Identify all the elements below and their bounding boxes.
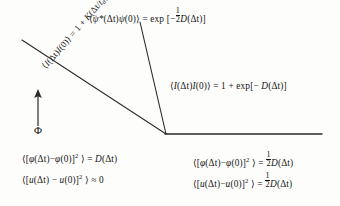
- phi-axis-label: Φ: [26, 124, 50, 136]
- br1-D-symbol: D: [271, 158, 278, 168]
- br2-arg-zero: (0): [230, 179, 241, 189]
- br2-half-numerator: 1: [265, 173, 269, 180]
- br1-half-numerator: 1: [266, 152, 270, 159]
- potential-well-diagram: Φ ⟨ψ*(Δt)ψ(0)⟩ = exp [−12D(Δt)] ⟨I(Δt)I(…: [0, 0, 340, 206]
- intexp-one: 1: [221, 81, 226, 91]
- annotation-displacement-msd-half: ⟨[u(Δt)−u(0)]2 ⟩ = 12D(Δt): [193, 173, 292, 190]
- bl1-D-arg: (Δt): [102, 154, 117, 164]
- br1-arg-zero: (0): [231, 158, 242, 168]
- phi-axis: Φ: [26, 88, 50, 142]
- br2-D-arg: (Δt): [277, 179, 292, 189]
- br1-arg-dt: (Δt): [205, 158, 220, 168]
- psi-exp-label: exp: [150, 14, 164, 24]
- psi-equals: =: [142, 14, 147, 24]
- intexp-minus: −: [253, 81, 258, 91]
- psi-ket: ⟩: [136, 14, 140, 24]
- br2-arg-dt: (Δt): [205, 179, 220, 189]
- br1-D-arg: (Δt): [278, 158, 293, 168]
- bl1-arg-dt: (Δt): [34, 154, 49, 164]
- psi-one-half-fraction: 12: [175, 8, 180, 23]
- intexp-bracket-close: ]: [284, 81, 287, 91]
- psi-arg-zero: (0): [125, 14, 136, 24]
- br1-ket: ⟩: [252, 158, 256, 168]
- steep-branch-line: [140, 22, 166, 134]
- bl1-ket: ⟩: [81, 154, 85, 164]
- intexp-D-arg: (Δt): [268, 81, 283, 91]
- bl2-arg-dt: (Δt): [34, 175, 49, 185]
- intexp-arg-zero: (0): [196, 81, 207, 91]
- psi-half-numerator: 1: [176, 8, 180, 15]
- bl2-ket: ⟩: [85, 175, 89, 185]
- bl2-arg-zero: (0): [64, 175, 75, 185]
- bl2-square: 2: [79, 173, 82, 180]
- br2-equals: =: [257, 179, 262, 189]
- bl1-D-symbol: D: [95, 154, 102, 164]
- annotation-phase-msd-full: ⟨[φ(Δt)−φ(0)]2 ⟩ = D(Δt): [22, 152, 117, 165]
- psi-D-arg: (Δt): [187, 14, 202, 24]
- psi-bracket-close: ]: [203, 14, 206, 24]
- bl2-minus: −: [52, 175, 57, 185]
- bl1-arg-zero: (0): [60, 154, 71, 164]
- br1-square: 2: [246, 156, 249, 163]
- br2-square: 2: [245, 177, 248, 184]
- br1-one-half-fraction: 12: [266, 152, 271, 167]
- intexp-equals: =: [213, 81, 218, 91]
- annotation-phase-msd-half: ⟨[φ(Δt)−φ(0)]2 ⟩ = 12D(Δt): [193, 152, 293, 169]
- br2-ket: ⟩: [251, 179, 255, 189]
- br1-half-denominator: 2: [266, 159, 270, 167]
- bl1-equals: =: [87, 154, 92, 164]
- br2-one-half-fraction: 12: [265, 173, 270, 188]
- bl1-square: 2: [75, 152, 78, 159]
- br2-D-symbol: D: [270, 179, 277, 189]
- br1-equals: =: [258, 158, 263, 168]
- annotation-psi-correlation: ⟨ψ*(Δt)ψ(0)⟩ = exp [−12D(Δt)]: [89, 8, 206, 25]
- psi-half-denominator: 2: [176, 15, 180, 23]
- psi-arg-dt: (Δt): [104, 14, 119, 24]
- intexp-ket: ⟩: [207, 81, 211, 91]
- bl2-zero: 0: [99, 175, 104, 185]
- intexp-plus: +: [228, 81, 233, 91]
- intexp-exp-label: exp: [236, 81, 250, 91]
- bl2-approx: ≈: [91, 175, 96, 185]
- up-arrow-icon: [26, 88, 50, 128]
- annotation-displacement-msd-zero: ⟨[u(Δt) − u(0)]2 ⟩ ≈ 0: [22, 173, 104, 186]
- br2-half-denominator: 2: [265, 180, 269, 188]
- annotation-intensity-exp: ⟨I(Δt)I(0)⟩ = 1 + exp[− D(Δt)]: [170, 81, 287, 92]
- intexp-arg-dt: (Δt): [177, 81, 192, 91]
